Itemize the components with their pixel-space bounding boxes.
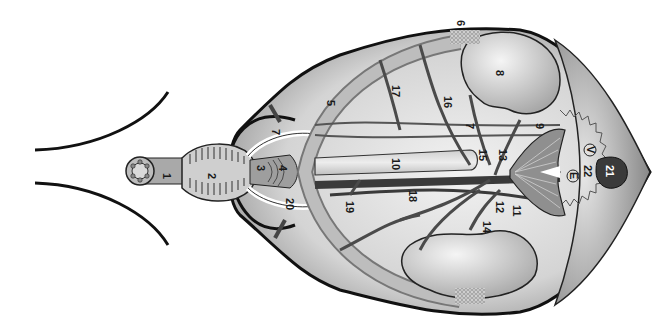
label-7b: 7 bbox=[464, 123, 476, 129]
label-v: V bbox=[585, 146, 597, 154]
structure-6-patch bbox=[450, 30, 480, 44]
label-8: 8 bbox=[494, 70, 506, 76]
label-e: E bbox=[568, 172, 580, 179]
structure-2-bulb bbox=[182, 144, 256, 201]
label-18: 18 bbox=[407, 190, 419, 202]
label-19: 19 bbox=[344, 201, 356, 213]
label-2: 2 bbox=[206, 173, 218, 179]
label-9: 9 bbox=[534, 123, 546, 129]
label-15: 15 bbox=[477, 149, 489, 161]
label-5: 5 bbox=[325, 100, 337, 106]
diagram-canvas: 1 2 3 4 5 6 7 7 8 9 10 11 12 13 14 15 16… bbox=[0, 0, 652, 331]
label-17: 17 bbox=[390, 85, 402, 97]
label-21: 21 bbox=[604, 165, 616, 177]
label-22: 22 bbox=[582, 165, 594, 177]
label-1: 1 bbox=[161, 173, 173, 179]
label-20: 20 bbox=[284, 198, 296, 210]
label-13: 13 bbox=[497, 149, 509, 161]
structure-1-tube bbox=[126, 157, 185, 185]
label-7a: 7 bbox=[270, 129, 282, 135]
label-6: 6 bbox=[455, 20, 467, 26]
label-3: 3 bbox=[255, 165, 267, 171]
label-11: 11 bbox=[511, 205, 523, 217]
lower-dotted-patch bbox=[455, 288, 485, 304]
label-14: 14 bbox=[481, 221, 493, 234]
anatomy-diagram: 1 2 3 4 5 6 7 7 8 9 10 11 12 13 14 15 16… bbox=[0, 0, 652, 331]
label-16: 16 bbox=[442, 96, 454, 108]
label-10: 10 bbox=[390, 158, 402, 170]
label-4: 4 bbox=[277, 165, 289, 172]
label-12: 12 bbox=[494, 201, 506, 213]
